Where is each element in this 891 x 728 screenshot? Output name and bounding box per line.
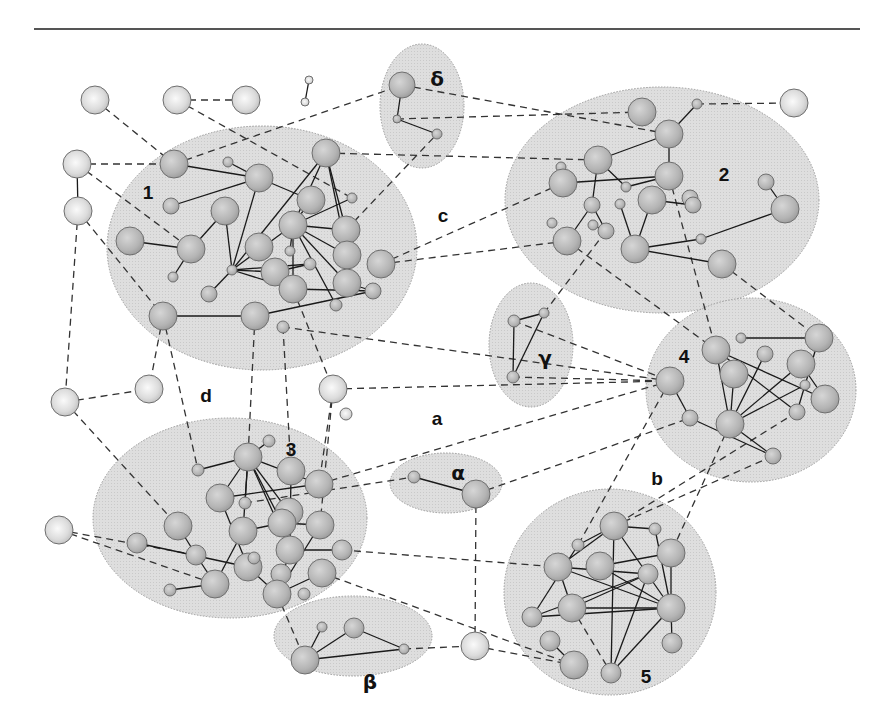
cluster-node bbox=[279, 211, 307, 239]
cluster-node bbox=[432, 129, 442, 139]
cluster-node bbox=[657, 594, 685, 622]
cluster-node bbox=[508, 315, 520, 327]
cluster-network-diagram: 12345αβγδabcd bbox=[0, 0, 891, 728]
unclustered-node bbox=[461, 632, 489, 660]
cluster-node bbox=[332, 216, 360, 244]
cluster-node bbox=[787, 350, 815, 378]
cluster-node bbox=[304, 258, 316, 270]
unclustered-node bbox=[64, 197, 92, 225]
cluster-node bbox=[116, 227, 144, 255]
cluster-node bbox=[285, 246, 295, 256]
unclustered-node bbox=[45, 516, 73, 544]
cluster-node bbox=[241, 302, 269, 330]
cluster-node bbox=[553, 227, 581, 255]
cluster-label-c2: 2 bbox=[719, 164, 730, 185]
cluster-node bbox=[305, 470, 333, 498]
dashed-edge bbox=[475, 494, 476, 646]
cluster-node bbox=[201, 286, 217, 302]
cluster-node bbox=[223, 157, 233, 167]
unclustered-node bbox=[63, 150, 91, 178]
cluster-node bbox=[177, 235, 205, 263]
unclustered-node bbox=[319, 375, 347, 403]
cluster-node bbox=[277, 457, 305, 485]
cluster-node bbox=[696, 234, 706, 244]
cluster-node bbox=[277, 321, 289, 333]
cluster-node bbox=[192, 464, 204, 476]
cluster-node bbox=[127, 533, 147, 553]
unclustered-node bbox=[305, 76, 313, 84]
cluster-node bbox=[601, 663, 621, 683]
cluster-node bbox=[186, 545, 206, 565]
cluster-node bbox=[365, 283, 381, 299]
cluster-node bbox=[757, 346, 773, 362]
cluster-label-delta: δ bbox=[430, 67, 444, 91]
cluster-node bbox=[201, 570, 229, 598]
cluster-label-c5: 5 bbox=[641, 666, 652, 687]
cluster-node bbox=[716, 410, 744, 438]
cluster-node bbox=[655, 162, 683, 190]
cluster-node bbox=[317, 622, 327, 632]
cluster-node bbox=[811, 385, 839, 413]
cluster-node bbox=[229, 517, 257, 545]
cluster-node bbox=[347, 193, 357, 203]
cluster-node bbox=[227, 265, 237, 275]
cluster-label-c1: 1 bbox=[143, 182, 154, 203]
cluster-node bbox=[758, 174, 774, 190]
dashed-edge bbox=[65, 211, 78, 402]
cluster-node bbox=[586, 552, 614, 580]
cluster-node bbox=[720, 360, 748, 388]
cluster-node bbox=[800, 380, 810, 390]
cluster-node bbox=[268, 509, 296, 537]
cluster-node bbox=[389, 72, 415, 98]
cluster-node bbox=[638, 564, 658, 584]
cluster-node bbox=[399, 644, 409, 654]
unclustered-node bbox=[51, 388, 79, 416]
cluster-node bbox=[312, 139, 340, 167]
cluster-node bbox=[291, 646, 319, 674]
cluster-node bbox=[367, 250, 395, 278]
cluster-node bbox=[708, 250, 736, 278]
cluster-node bbox=[621, 182, 631, 192]
cluster-node bbox=[656, 367, 684, 395]
dashed-edge bbox=[95, 100, 174, 164]
cluster-node bbox=[330, 299, 342, 311]
cluster-node bbox=[344, 618, 364, 638]
cluster-node bbox=[540, 631, 560, 651]
cluster-node bbox=[239, 497, 251, 509]
unclustered-node bbox=[232, 86, 260, 114]
cluster-node bbox=[615, 199, 625, 209]
cluster-node bbox=[276, 536, 304, 564]
cluster-node bbox=[507, 371, 519, 383]
cluster-label-alpha: α bbox=[451, 461, 465, 485]
unclustered-node bbox=[301, 98, 309, 106]
cluster-node bbox=[211, 197, 239, 225]
unclustered-node bbox=[163, 86, 191, 114]
cluster-node bbox=[332, 540, 352, 560]
cluster-node bbox=[164, 584, 176, 596]
cluster-node bbox=[263, 580, 291, 608]
cluster-node bbox=[736, 333, 746, 343]
cluster-node bbox=[408, 471, 420, 483]
cluster-node bbox=[279, 275, 307, 303]
unclustered-node bbox=[780, 89, 808, 117]
cluster-node bbox=[248, 552, 260, 564]
cluster-node bbox=[600, 512, 628, 540]
cluster-gamma bbox=[489, 283, 573, 407]
unclustered-node bbox=[135, 375, 163, 403]
cluster-node bbox=[149, 302, 177, 330]
cluster-node bbox=[655, 120, 683, 148]
cluster-node bbox=[308, 559, 336, 587]
cluster-node bbox=[160, 150, 188, 178]
cluster-label-c3: 3 bbox=[286, 439, 297, 460]
cluster-node bbox=[163, 198, 179, 214]
cluster-node bbox=[805, 324, 833, 352]
cluster-node bbox=[765, 448, 781, 464]
region-label-a: a bbox=[432, 408, 443, 429]
cluster-node bbox=[333, 269, 361, 297]
cluster-node bbox=[393, 115, 401, 123]
cluster-label-c4: 4 bbox=[679, 346, 690, 367]
cluster-node bbox=[702, 336, 730, 364]
cluster-node bbox=[560, 651, 588, 679]
cluster-node bbox=[771, 195, 799, 223]
cluster-node bbox=[649, 523, 661, 535]
